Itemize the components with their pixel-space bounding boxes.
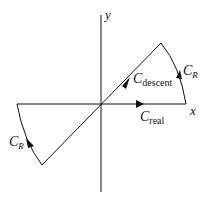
arc-left-arrow-icon: [26, 138, 34, 148]
c-real-arrow-icon: [136, 100, 144, 108]
c-descent-label: Cdescent: [133, 71, 173, 88]
c-r-left-label: CR: [9, 134, 24, 151]
x-axis-label: x: [189, 103, 196, 118]
contour-diagram: y x Cdescent Creal CR CR: [0, 0, 209, 201]
c-real-label: Creal: [140, 109, 165, 126]
c-r-right-label: CR: [183, 63, 198, 80]
y-axis-label: y: [103, 7, 111, 22]
arc-left: [17, 104, 42, 165]
